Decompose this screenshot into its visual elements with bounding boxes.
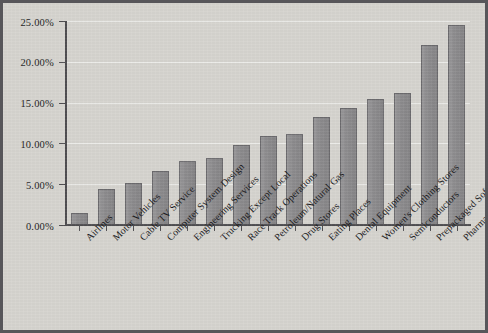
y-axis-tick-mark: [59, 143, 66, 144]
y-axis-tick: 0.00%: [59, 225, 66, 226]
y-axis-tick-label: 5.00%: [26, 179, 54, 190]
x-axis-category-label: Motor Vehicles: [110, 235, 118, 243]
y-axis-tick-mark: [59, 21, 66, 22]
y-axis-tick: 25.00%: [59, 21, 66, 22]
x-axis-category-label: Prepackaged Software: [434, 235, 442, 243]
y-axis-tick: 5.00%: [59, 184, 66, 185]
x-axis-category-label: Eating Places: [326, 235, 334, 243]
x-axis-category-label: Semiconductors: [407, 235, 415, 243]
y-axis-tick: 10.00%: [59, 143, 66, 144]
y-axis-tick-label: 25.00%: [20, 16, 54, 27]
gridline: [66, 62, 470, 63]
y-axis-tick-label: 20.00%: [20, 57, 54, 68]
x-axis-category-label: Engineering Services: [191, 235, 199, 243]
gridline: [66, 21, 470, 22]
y-axis-tick-mark: [59, 103, 66, 104]
y-axis-tick-label: 15.00%: [20, 98, 54, 109]
y-axis-tick: 15.00%: [59, 103, 66, 104]
x-axis-category-label: Airlines: [83, 235, 91, 243]
y-axis-tick-label: 0.00%: [26, 220, 54, 231]
x-axis-category-label: Pharmaceuticals: [461, 235, 469, 243]
x-axis-category-label: Drug Stores: [299, 235, 307, 243]
y-axis-tick-mark: [59, 62, 66, 63]
x-axis-tick-mark: [79, 225, 80, 231]
y-axis-tick-mark: [59, 225, 66, 226]
x-axis-category-label: Women's Clothing Stores: [380, 235, 388, 243]
x-axis-category-label: Race Track Operations: [245, 235, 253, 243]
y-axis-tick-mark: [59, 184, 66, 185]
y-axis-tick-label: 10.00%: [20, 138, 54, 149]
chart-frame: 25.00%20.00%15.00%10.00%5.00%0.00% Airli…: [0, 0, 488, 333]
x-axis-category-label: Trucking Except Local: [218, 235, 226, 243]
y-axis-tick: 20.00%: [59, 62, 66, 63]
x-axis-category-label: Cable TV Service: [137, 235, 145, 243]
x-axis-category-label: Dental Equipment: [353, 235, 361, 243]
x-axis-category-label: Computer System Design: [164, 235, 172, 243]
y-axis-line: [65, 21, 67, 225]
x-axis-category-label: Petroleum/Natural Gas: [272, 235, 280, 243]
